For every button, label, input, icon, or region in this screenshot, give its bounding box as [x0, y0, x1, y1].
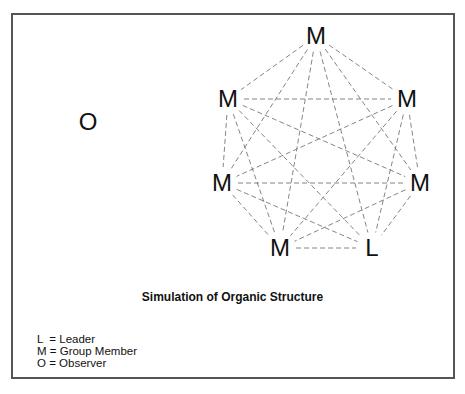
dashed-edge: [283, 52, 314, 232]
dashed-edge: [241, 45, 303, 89]
member-node: M: [212, 171, 232, 195]
dashed-edge: [237, 189, 358, 241]
legend-leader: L = Leader: [37, 333, 137, 345]
member-node: M: [397, 87, 417, 111]
dashed-edge: [237, 106, 393, 177]
dashed-edge: [290, 111, 396, 236]
legend-observer: O = Observer: [37, 357, 137, 369]
dashed-edge: [223, 115, 227, 167]
dashed-edge: [409, 115, 417, 167]
dashed-edge: [295, 190, 406, 242]
dashed-edge: [243, 105, 406, 176]
dashed-edge: [329, 45, 394, 90]
observer-node: O: [79, 110, 98, 134]
member-node: M: [270, 236, 290, 260]
dashed-edge: [382, 196, 411, 235]
member-node: M: [306, 24, 326, 48]
legend-member: M = Group Member: [37, 345, 137, 357]
member-node: M: [218, 87, 238, 111]
legend: L = Leader M = Group Member O = Observer: [37, 333, 137, 369]
diagram-title: Simulation of Organic Structure: [0, 290, 465, 304]
member-node: M: [410, 171, 430, 195]
dashed-edge: [233, 114, 274, 233]
dashed-edge: [231, 49, 308, 169]
dashed-edge: [239, 111, 361, 237]
leader-node: L: [365, 236, 378, 260]
